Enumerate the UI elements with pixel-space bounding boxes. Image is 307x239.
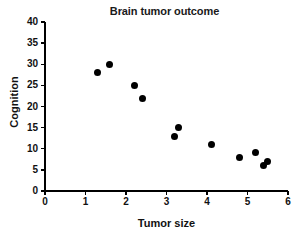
y-axis-tick-label: 20	[18, 102, 38, 112]
x-axis-tick-label: 0	[35, 197, 55, 207]
x-axis-tick-label: 6	[278, 197, 298, 207]
y-axis-tick-label: 5	[18, 165, 38, 175]
scatter-chart: Brain tumor outcome 0510152025303540 012…	[0, 0, 307, 239]
x-axis-tick-label: 5	[238, 197, 258, 207]
y-axis-tick-label: 40	[18, 17, 38, 27]
data-point	[139, 95, 146, 102]
data-point	[131, 82, 138, 89]
data-point	[236, 154, 243, 161]
plot-area	[45, 22, 288, 191]
data-point	[208, 141, 215, 148]
y-axis-tick-label: 25	[18, 80, 38, 90]
x-axis-tick-label: 4	[197, 197, 217, 207]
data-point	[171, 133, 178, 140]
y-axis-tick-label: 15	[18, 123, 38, 133]
y-axis-tick-label: 35	[18, 38, 38, 48]
x-axis-label: Tumor size	[45, 217, 288, 229]
y-axis-tick-label: 30	[18, 59, 38, 69]
x-axis-tick-label: 3	[157, 197, 177, 207]
y-axis-tick-label: 0	[18, 186, 38, 196]
x-axis-tick-labels: 0123456	[0, 197, 307, 211]
x-axis-tick-label: 2	[116, 197, 136, 207]
y-axis-tick-label: 10	[18, 144, 38, 154]
y-axis-label: Cognition	[8, 52, 20, 152]
x-axis-tick-label: 1	[76, 197, 96, 207]
